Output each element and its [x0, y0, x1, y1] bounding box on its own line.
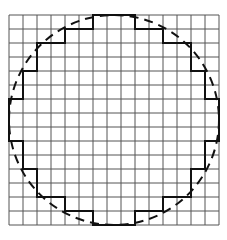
circle-grid-diagram	[0, 0, 227, 240]
staircase-outline	[9, 15, 219, 225]
dashed-circle	[9, 15, 219, 225]
grid-lines	[9, 15, 219, 225]
